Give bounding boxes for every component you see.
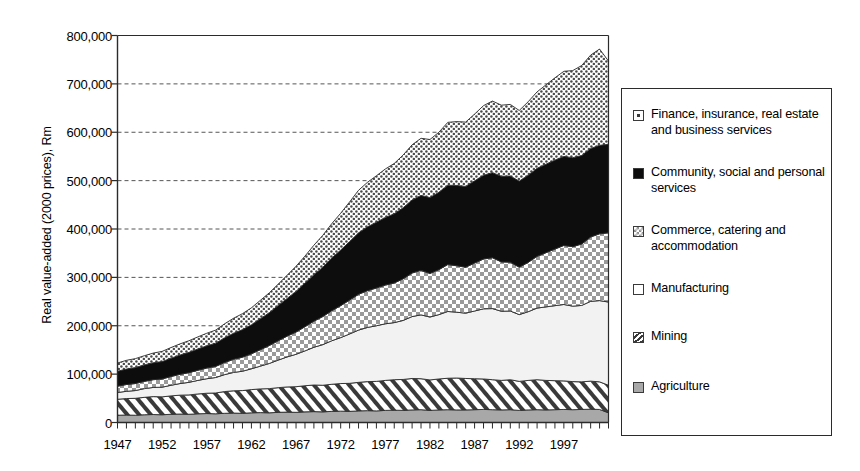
- legend-swatch-icon: [633, 226, 644, 237]
- legend-item[interactable]: Agriculture: [633, 379, 827, 395]
- legend: Finance, insurance, real estate and busi…: [621, 88, 832, 436]
- legend-label: Mining: [651, 329, 827, 345]
- legend-item[interactable]: Manufacturing: [633, 281, 827, 297]
- legend-swatch-icon: [633, 332, 644, 343]
- legend-swatch-icon: [633, 284, 644, 295]
- legend-swatch-icon: [633, 110, 644, 121]
- legend-item[interactable]: Mining: [633, 329, 827, 345]
- legend-item[interactable]: Finance, insurance, real estate and busi…: [633, 107, 827, 138]
- legend-label: Manufacturing: [651, 281, 827, 297]
- legend-label: Agriculture: [651, 379, 827, 395]
- legend-item[interactable]: Community, social and personal services: [633, 165, 827, 196]
- legend-label: Finance, insurance, real estate and busi…: [651, 107, 827, 138]
- legend-item[interactable]: Commerce, catering and accommodation: [633, 223, 827, 254]
- legend-label: Community, social and personal services: [651, 165, 827, 196]
- legend-swatch-icon: [633, 168, 644, 179]
- legend-swatch-icon: [633, 382, 644, 393]
- chart-root: 0100,000200,000300,000400,000500,000600,…: [0, 0, 860, 471]
- legend-label: Commerce, catering and accommodation: [651, 223, 827, 254]
